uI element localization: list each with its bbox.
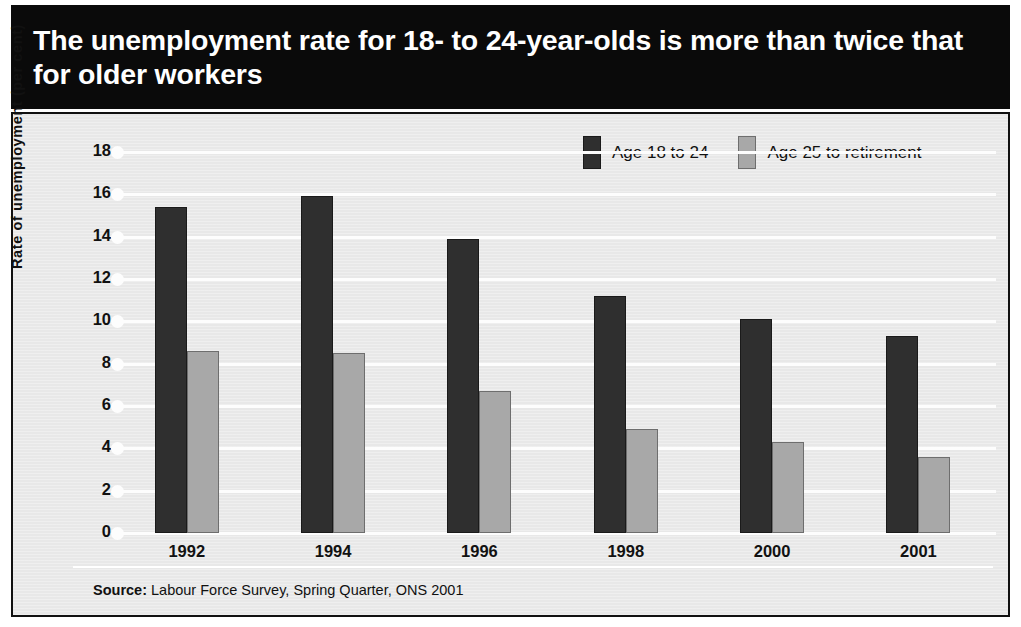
y-tick-label: 4 [65, 437, 111, 456]
x-tick-label: 2001 [868, 542, 968, 561]
plot-area [118, 152, 996, 533]
gridline [118, 532, 996, 535]
bar [594, 296, 626, 533]
bar [333, 353, 365, 533]
y-tick-label: 18 [65, 141, 111, 160]
bar [479, 391, 511, 533]
y-tick-label: 10 [65, 310, 111, 329]
bar [301, 196, 333, 533]
axis-tick-dot [111, 273, 124, 286]
y-tick-label: 12 [65, 268, 111, 287]
bar [886, 336, 918, 533]
bar [447, 239, 479, 533]
gridline [118, 151, 996, 154]
bar-group [886, 336, 950, 533]
gridline [118, 405, 996, 408]
bar-group [594, 296, 658, 533]
gridline [118, 278, 996, 281]
y-tick-label: 16 [65, 183, 111, 202]
x-tick-label: 1998 [576, 542, 676, 561]
y-tick-label: 2 [65, 480, 111, 499]
bar [626, 429, 658, 533]
axis-tick-dot [111, 188, 124, 201]
gridline [118, 236, 996, 239]
y-tick-label: 14 [65, 226, 111, 245]
bar [740, 319, 772, 533]
source-value: Labour Force Survey, Spring Quarter, ONS… [151, 582, 463, 598]
bar-group [740, 319, 804, 533]
x-tick-label: 2000 [722, 542, 822, 561]
y-tick-label: 8 [65, 353, 111, 372]
x-tick-label: 1992 [137, 542, 237, 561]
bar [772, 442, 804, 533]
y-axis-tick-labels: 024681012141618 [61, 152, 111, 533]
chart-page: The unemployment rate for 18- to 24-year… [0, 0, 1021, 627]
axis-tick-dot [111, 442, 124, 455]
axis-tick-dot [111, 231, 124, 244]
x-tick-label: 1994 [283, 542, 383, 561]
bar-group [155, 207, 219, 533]
y-tick-label: 6 [65, 395, 111, 414]
axis-tick-dot [111, 485, 124, 498]
source-divider [73, 566, 993, 568]
y-axis-title: Rate of unemployment (per cent) [9, 24, 25, 269]
gridline [118, 363, 996, 366]
axis-tick-dot [111, 400, 124, 413]
chart-panel: Age 18 to 24 Age 25 to retirement Rate o… [11, 112, 1010, 617]
axis-tick-dot [111, 146, 124, 159]
gridline [118, 447, 996, 450]
gridline [118, 193, 996, 196]
axis-tick-dot [111, 315, 124, 328]
bar [155, 207, 187, 533]
title-banner: The unemployment rate for 18- to 24-year… [11, 5, 1010, 109]
page-title: The unemployment rate for 18- to 24-year… [11, 23, 1010, 91]
source-label: Source: [93, 582, 147, 598]
bar-group [301, 196, 365, 533]
source-note: Source: Labour Force Survey, Spring Quar… [93, 582, 463, 598]
axis-tick-dot [111, 358, 124, 371]
x-tick-label: 1996 [429, 542, 529, 561]
bar [187, 351, 219, 533]
bar-group [447, 239, 511, 533]
bar [918, 457, 950, 533]
gridline [118, 320, 996, 323]
y-tick-label: 0 [65, 522, 111, 541]
axis-tick-dot [111, 527, 124, 540]
gridline [118, 490, 996, 493]
